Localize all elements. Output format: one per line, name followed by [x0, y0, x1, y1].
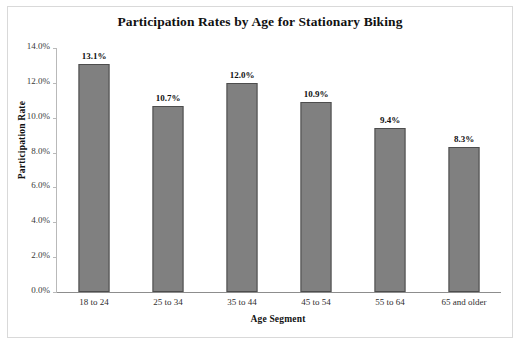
chart-title: Participation Rates by Age for Stationar… [0, 14, 520, 30]
bar-group: 9.4%55 to 64 [353, 48, 427, 292]
x-axis-tick-label: 65 and older [442, 297, 487, 307]
y-axis-title: Participation Rate [17, 70, 27, 210]
bar-value-label: 9.4% [380, 115, 400, 125]
bar[interactable] [79, 64, 110, 292]
bar-group: 8.3%65 and older [427, 48, 501, 292]
y-axis-tick-label: 10.0% [27, 111, 50, 121]
x-axis-tick-label: 18 to 24 [79, 297, 109, 307]
y-axis-tick-mark [53, 292, 57, 293]
y-axis-tick-label: 0.0% [31, 285, 50, 295]
bar[interactable] [449, 147, 480, 292]
y-axis-tick-label: 2.0% [31, 250, 50, 260]
y-axis-tick-label: 6.0% [31, 180, 50, 190]
x-axis-tick-label: 25 to 34 [153, 297, 183, 307]
plot-area: 0.0%2.0%4.0%6.0%8.0%10.0%12.0%14.0% 13.1… [56, 48, 501, 293]
bar[interactable] [301, 102, 332, 292]
bar-value-label: 8.3% [454, 134, 474, 144]
bar-value-label: 12.0% [230, 70, 255, 80]
bar-group: 10.9%45 to 54 [279, 48, 353, 292]
bar-group: 12.0%35 to 44 [205, 48, 279, 292]
x-axis-tick-label: 55 to 64 [375, 297, 405, 307]
bar-value-label: 10.9% [304, 89, 329, 99]
y-axis-tick-label: 8.0% [31, 146, 50, 156]
bar[interactable] [227, 83, 258, 292]
y-axis-tick-label: 14.0% [27, 41, 50, 51]
y-axis-tick-label: 12.0% [27, 76, 50, 86]
bar-group: 13.1%18 to 24 [57, 48, 131, 292]
bar-value-label: 10.7% [156, 93, 181, 103]
y-axis-tick-label: 4.0% [31, 215, 50, 225]
x-axis-tick-label: 45 to 54 [301, 297, 331, 307]
bar-value-label: 13.1% [82, 51, 107, 61]
bar-group: 10.7%25 to 34 [131, 48, 205, 292]
x-axis-title: Age Segment [55, 314, 501, 324]
bar[interactable] [153, 106, 184, 292]
bars-layer: 13.1%18 to 2410.7%25 to 3412.0%35 to 441… [57, 48, 501, 292]
bar[interactable] [375, 128, 406, 292]
x-axis-tick-label: 35 to 44 [227, 297, 257, 307]
